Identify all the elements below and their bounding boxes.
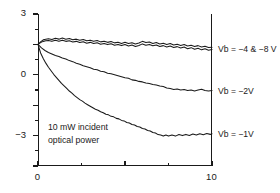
y-tick-label: −6 — [15, 191, 26, 193]
series-label: Vb = −2V — [218, 87, 254, 96]
y-tick-label: 0 — [21, 69, 26, 79]
series-curve — [38, 44, 212, 91]
annotation-line-2: optical power — [48, 134, 108, 147]
series-label: Vb = −4 & −8 V — [218, 44, 277, 53]
x-tick-label: 0 — [35, 172, 40, 182]
y-tick-label: −3 — [15, 130, 26, 140]
chart-figure: 30−3−6−9−12 01020 10 mW incident optical… — [0, 0, 280, 193]
x-tick-label: 10 — [206, 172, 217, 182]
series-label: Vb = −1V — [218, 130, 254, 139]
annotation-line-1: 10 mW incident — [48, 121, 108, 134]
optical-power-annotation: 10 mW incident optical power — [48, 121, 108, 146]
series-curve — [38, 38, 212, 47]
y-tick-label: 3 — [21, 9, 26, 19]
